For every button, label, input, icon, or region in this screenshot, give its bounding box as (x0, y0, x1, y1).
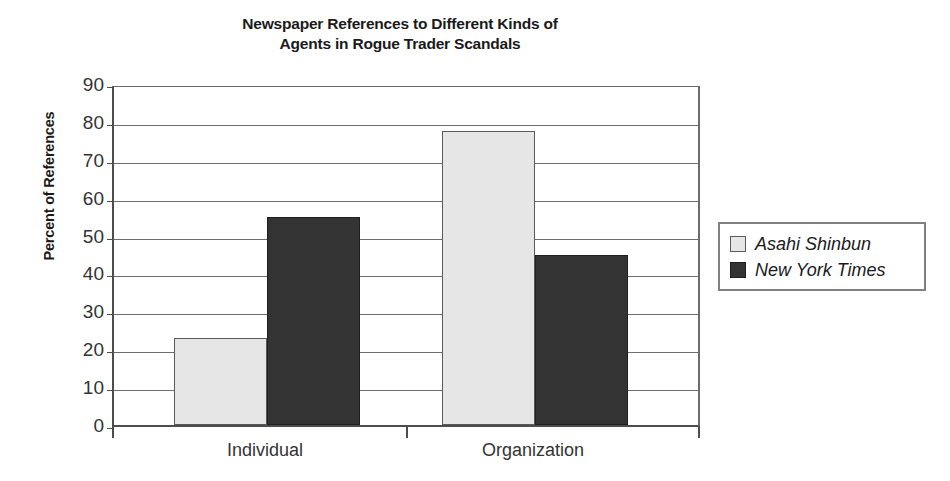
gridline-70 (114, 163, 698, 164)
y-axis-tick-labels: 9080706050403020100 (40, 86, 104, 427)
gridline-50 (114, 239, 698, 240)
legend-swatch-icon-dark (730, 262, 746, 278)
x-tick-mark-2 (698, 427, 700, 438)
bar-chart-figure: Newspaper References to Different Kinds … (0, 0, 950, 481)
y-tick-mark-70 (107, 163, 114, 164)
gridline-80 (114, 125, 698, 126)
y-tick-label-60: 60 (44, 188, 104, 210)
x-axis-label-organization: Organization (433, 440, 633, 461)
y-tick-mark-30 (107, 314, 114, 315)
bar-organization-asahi-shinbun (442, 131, 535, 425)
y-tick-mark-80 (107, 125, 114, 126)
y-tick-mark-10 (107, 390, 114, 391)
bar-individual-new-york-times (267, 217, 360, 425)
bar-individual-asahi-shinbun (174, 338, 267, 425)
y-tick-label-30: 30 (44, 301, 104, 323)
x-axis-tick-labels: IndividualOrganization (112, 440, 700, 470)
legend-label: Asahi Shinbun (755, 234, 871, 255)
y-tick-label-70: 70 (44, 150, 104, 172)
y-tick-mark-20 (107, 352, 114, 353)
gridline-60 (114, 201, 698, 202)
legend-item-new-york-times[interactable]: New York Times (730, 257, 924, 283)
y-tick-label-90: 90 (44, 74, 104, 96)
legend-item-asahi-shinbun[interactable]: Asahi Shinbun (730, 231, 924, 257)
y-tick-mark-90 (107, 87, 114, 88)
x-axis-label-individual: Individual (165, 440, 365, 461)
y-tick-label-10: 10 (44, 377, 104, 399)
legend-swatch-icon-light (730, 236, 746, 252)
y-tick-mark-40 (107, 276, 114, 277)
y-tick-label-40: 40 (44, 263, 104, 285)
legend-label: New York Times (755, 260, 886, 281)
chart-title-line-2: Agents in Rogue Trader Scandals (60, 34, 740, 54)
y-tick-label-80: 80 (44, 112, 104, 134)
x-tick-mark-1 (406, 427, 408, 438)
y-tick-label-20: 20 (44, 339, 104, 361)
y-tick-label-0: 0 (44, 415, 104, 437)
chart-title: Newspaper References to Different Kinds … (60, 14, 740, 54)
x-tick-mark-0 (112, 427, 114, 438)
chart-title-line-1: Newspaper References to Different Kinds … (60, 14, 740, 34)
chart-legend: Asahi ShinbunNew York Times (718, 222, 926, 291)
x-axis-ticks (112, 427, 700, 439)
plot-area (112, 86, 700, 427)
bar-organization-new-york-times (535, 255, 628, 426)
y-tick-label-50: 50 (44, 226, 104, 248)
y-tick-mark-50 (107, 239, 114, 240)
y-tick-mark-60 (107, 201, 114, 202)
